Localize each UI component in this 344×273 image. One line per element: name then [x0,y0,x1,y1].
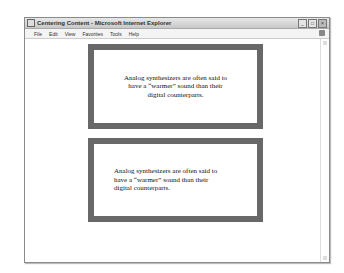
ie-page-icon [27,19,35,27]
scroll-down-arrow-icon[interactable] [323,256,327,260]
menu-favorites[interactable]: Favorites [82,31,103,37]
title-bar: Centering Content - Microsoft Internet E… [25,18,329,29]
menu-tools[interactable]: Tools [110,31,122,37]
menu-help[interactable]: Help [129,31,139,37]
menu-edit[interactable]: Edit [49,31,58,37]
window-title: Centering Content - Microsoft Internet E… [37,20,297,26]
page-content: Analog synthesizers are often said to ha… [25,39,329,262]
close-button[interactable]: × [318,19,327,28]
menu-bar: File Edit View Favorites Tools Help [25,29,329,39]
left-aligned-text-box: Analog synthesizers are often said to ha… [88,138,263,222]
vertical-scrollbar[interactable] [320,39,329,262]
box-paragraph: Analog synthesizers are often said to ha… [114,167,224,193]
maximize-button[interactable]: □ [308,19,317,28]
browser-window: Centering Content - Microsoft Internet E… [24,17,330,263]
scroll-up-arrow-icon[interactable] [323,41,327,45]
box-paragraph: Analog synthesizers are often said to ha… [121,74,231,100]
menu-view[interactable]: View [65,31,76,37]
centered-text-box: Analog synthesizers are often said to ha… [88,44,263,129]
windows-logo-icon [319,30,325,36]
minimize-button[interactable]: _ [298,19,307,28]
menu-file[interactable]: File [34,31,42,37]
